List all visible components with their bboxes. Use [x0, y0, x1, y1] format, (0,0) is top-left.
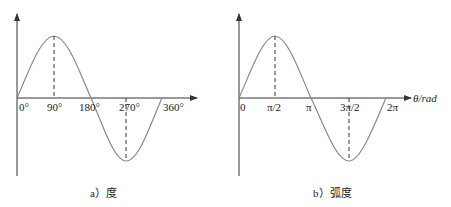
figure: 0° 90° 180° 270° 360° a）度 0 π/2 π 3π/2 2… — [0, 0, 451, 207]
tick-label: 0° — [19, 101, 29, 113]
tick-label: 360° — [163, 101, 184, 113]
axis-label: θ/rad — [413, 92, 437, 104]
tick-label: 90° — [47, 101, 62, 113]
panel-b-radians: 0 π/2 π 3π/2 2π θ/rad b）弧度 — [239, 14, 437, 199]
caption: a）度 — [90, 186, 117, 199]
tick-label: π/2 — [267, 101, 281, 113]
tick-label: π — [306, 101, 312, 113]
tick-label: 2π — [387, 101, 399, 113]
tick-label: 270° — [119, 101, 140, 113]
caption: b）弧度 — [313, 186, 352, 199]
panel-a-degrees: 0° 90° 180° 270° 360° a）度 — [17, 14, 197, 199]
tick-label: 180° — [79, 101, 100, 113]
tick-label: 3π/2 — [340, 101, 360, 113]
tick-label: 0 — [240, 101, 246, 113]
